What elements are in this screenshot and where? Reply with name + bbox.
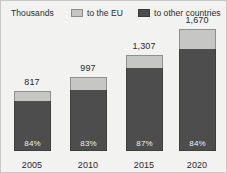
bar-segment-other-2010[interactable]: 83% [70, 90, 107, 151]
bar-stack-2015[interactable]: 87% [126, 55, 163, 151]
bar-group-2010: 997 83% 2010 [61, 23, 115, 173]
x-axis-label-2005: 2005 [5, 160, 59, 170]
bar-segment-eu-2015[interactable] [126, 55, 163, 68]
bar-segment-other-2015[interactable]: 87% [126, 68, 163, 151]
legend-swatch-eu-icon [71, 9, 83, 17]
bar-total-label-2015: 1,307 [117, 41, 171, 51]
bar-total-label-2010: 997 [61, 63, 115, 73]
bar-segment-eu-2020[interactable] [179, 29, 216, 49]
bar-stack-2020[interactable]: 84% [179, 29, 216, 151]
legend-swatch-other-icon [138, 9, 150, 17]
bar-group-2020: 1,670 84% 2020 [170, 23, 224, 173]
bar-group-2005: 817 84% 2005 [5, 23, 59, 173]
bar-segment-other-2005[interactable]: 84% [14, 101, 51, 151]
bar-percent-label-2010: 83% [71, 139, 106, 148]
bar-stack-2010[interactable]: 83% [70, 77, 107, 151]
units-label: Thousands [11, 8, 54, 18]
bar-percent-label-2005: 84% [15, 139, 50, 148]
stacked-bar-chart: Thousands to the EU to other countries 8… [0, 0, 227, 173]
x-axis-label-2020: 2020 [170, 160, 224, 170]
bar-stack-2005[interactable]: 84% [14, 91, 51, 151]
x-axis-label-2010: 2010 [61, 160, 115, 170]
bar-percent-label-2020: 84% [180, 139, 215, 148]
bar-percent-label-2015: 87% [127, 139, 162, 148]
bar-segment-other-2020[interactable]: 84% [179, 49, 216, 151]
bar-group-2015: 1,307 87% 2015 [117, 23, 171, 173]
bar-segment-eu-2010[interactable] [70, 77, 107, 90]
plot-area: 817 84% 2005 997 83% 2010 1,307 [1, 23, 227, 173]
legend-item-to-the-eu: to the EU [71, 7, 123, 19]
bar-segment-eu-2005[interactable] [14, 91, 51, 101]
legend-label-eu: to the EU [87, 8, 123, 18]
bar-total-label-2005: 817 [5, 77, 59, 87]
x-axis-label-2015: 2015 [117, 160, 171, 170]
bar-total-label-2020: 1,670 [170, 15, 224, 25]
